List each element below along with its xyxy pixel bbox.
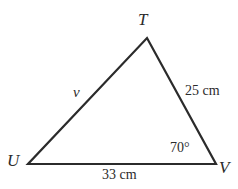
vertex-label-u: U xyxy=(7,152,19,169)
geometry-diagram: T U V v 25 cm 33 cm 70° xyxy=(0,0,238,189)
side-label-ut: v xyxy=(73,85,80,100)
angle-label-v: 70° xyxy=(170,141,190,155)
vertex-label-v: V xyxy=(219,159,229,176)
side-label-uv: 33 cm xyxy=(102,168,137,182)
vertex-label-t: T xyxy=(138,11,147,28)
side-label-tv: 25 cm xyxy=(185,84,220,98)
